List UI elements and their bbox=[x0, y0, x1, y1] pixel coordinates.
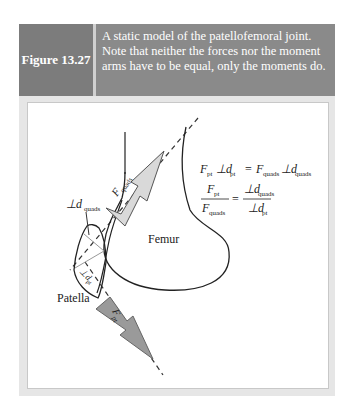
svg-text:pt: pt bbox=[262, 209, 268, 217]
svg-text:=: = bbox=[245, 162, 252, 176]
svg-text:quads: quads bbox=[295, 170, 312, 178]
svg-text:pt: pt bbox=[214, 190, 220, 198]
svg-text:quads: quads bbox=[209, 209, 226, 217]
femur-label: Femur bbox=[148, 232, 179, 246]
f-quads-sub: quads bbox=[119, 176, 135, 194]
svg-text:pt: pt bbox=[230, 170, 236, 178]
patellofemoral-diagram: Femur Patella F quads F pt ⊥d quads ⊥d p… bbox=[0, 0, 351, 418]
f-pt-arrow bbox=[96, 297, 153, 359]
patella-outline bbox=[74, 225, 106, 298]
d-quads-label: ⊥d bbox=[66, 197, 83, 211]
patella-label: Patella bbox=[57, 291, 90, 305]
svg-text:quads: quads bbox=[258, 190, 275, 198]
svg-text:quads: quads bbox=[263, 170, 280, 178]
equation-2: F pt F quads = ⊥d quads ⊥d pt bbox=[201, 182, 275, 217]
d-quads-sub: quads bbox=[84, 205, 101, 213]
d-quads-pointer bbox=[86, 212, 89, 235]
svg-text:=: = bbox=[232, 192, 239, 206]
d-quads-line bbox=[84, 234, 104, 251]
svg-text:pt: pt bbox=[207, 170, 213, 178]
equation-1: F pt ⊥d pt = F quads ⊥d quads bbox=[199, 162, 312, 178]
